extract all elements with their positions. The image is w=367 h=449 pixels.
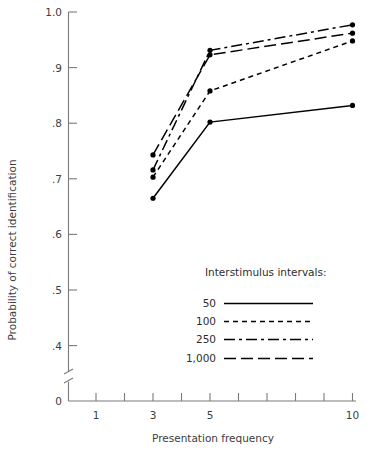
data-point-50-x5 (207, 119, 212, 124)
y-tick-label-0.5: .5 (52, 284, 62, 296)
y-tick-label-0.8: .8 (52, 117, 62, 129)
series-line-1000 (153, 33, 353, 155)
data-series-layer (150, 22, 355, 201)
data-point-100-x3 (150, 175, 155, 180)
y-tick-label-0.4: .4 (52, 340, 62, 352)
data-point-1000-x5 (207, 52, 212, 57)
legend-entry-250[interactable]: 250 (196, 333, 313, 345)
x-tick-label-1: 1 (93, 409, 100, 421)
data-point-1000-x3 (150, 152, 155, 157)
x-axis-title: Presentation frequency (152, 432, 274, 444)
data-point-100-x5 (207, 88, 212, 93)
legend-label-50: 50 (203, 297, 216, 309)
legend: Interstimulus intervals: 50 100 250 1,00… (186, 266, 327, 364)
data-point-250-x5 (207, 48, 212, 53)
y-axis-break-icon (64, 369, 73, 383)
y-tick-label-0: 0 (55, 395, 62, 407)
data-point-250-x3 (150, 167, 155, 172)
x-tick-label-3: 3 (150, 409, 157, 421)
data-point-100-x10 (350, 38, 355, 43)
y-tick-label-0.9: .9 (52, 62, 62, 74)
y-tick-label-0.7: .7 (52, 173, 62, 185)
y-axis: 1.0 .9 .8 .7 .6 .5 .4 0 Probability of c… (6, 6, 77, 407)
data-point-250-x10 (350, 22, 355, 27)
series-line-50 (153, 105, 353, 198)
series-line-250 (153, 25, 353, 170)
data-point-50-x3 (150, 196, 155, 201)
legend-entry-100[interactable]: 100 (196, 315, 313, 327)
y-tick-label-0.6: .6 (52, 228, 62, 240)
legend-entry-1000[interactable]: 1,000 (186, 352, 313, 364)
line-chart: 1.0 .9 .8 .7 .6 .5 .4 0 Probability of c… (0, 0, 367, 449)
legend-label-250: 250 (196, 333, 216, 345)
y-tick-label-1.0: 1.0 (45, 6, 62, 18)
legend-entry-50[interactable]: 50 (203, 297, 313, 309)
legend-label-1000: 1,000 (186, 352, 216, 364)
x-tick-label-10: 10 (346, 409, 359, 421)
data-point-1000-x10 (350, 31, 355, 36)
y-axis-title: Probability of correct identification (6, 159, 18, 340)
data-point-50-x10 (350, 103, 355, 108)
x-tick-label-5: 5 (207, 409, 214, 421)
figure-container: 1.0 .9 .8 .7 .6 .5 .4 0 Probability of c… (0, 0, 367, 449)
x-axis: 1 3 5 10 Presentation frequency (69, 393, 360, 444)
legend-title: Interstimulus intervals: (205, 266, 326, 278)
legend-label-100: 100 (196, 315, 216, 327)
